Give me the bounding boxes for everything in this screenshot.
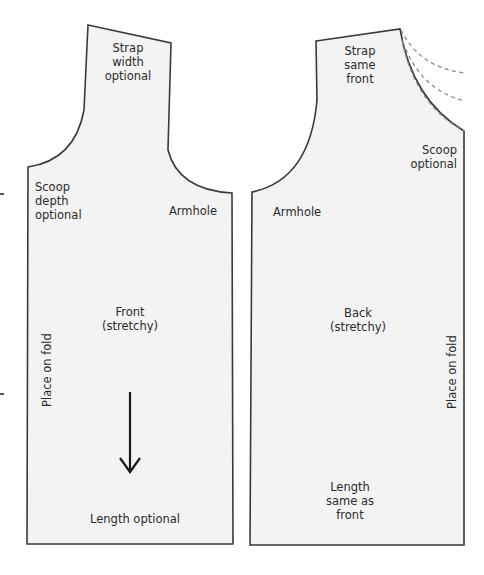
front-length-note: Length optional xyxy=(75,512,195,526)
back-length-note: Length same as front xyxy=(315,480,385,522)
front-scoop-note: Scoop depth optional xyxy=(35,180,105,222)
edge-tick-mark xyxy=(0,193,4,195)
back-piece-title: Back (stretchy) xyxy=(318,306,398,334)
front-fold-label: Place on fold xyxy=(40,333,54,407)
back-strap-note: Strap same front xyxy=(335,44,385,86)
back-scoop-note: Scoop optional xyxy=(395,143,457,171)
front-piece-title: Front (stretchy) xyxy=(90,305,170,333)
back-pattern-piece xyxy=(250,29,464,545)
front-strap-note: Strap width optional xyxy=(98,41,158,83)
pattern-diagram xyxy=(0,0,484,575)
back-fold-label: Place on fold xyxy=(445,335,459,409)
edge-tick-mark xyxy=(0,393,4,395)
back-armhole-label: Armhole xyxy=(273,205,335,219)
front-armhole-label: Armhole xyxy=(162,204,224,218)
